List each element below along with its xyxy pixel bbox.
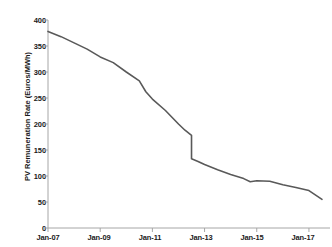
- x-axis-tick-marks: [48, 228, 309, 232]
- pv-remuneration-rate-chart: PV Remuneration Rate (Euros/MWh) 400 350…: [0, 0, 332, 247]
- data-line-pv-remuneration-rate: [48, 31, 322, 199]
- plot-area: [0, 0, 332, 247]
- y-axis-tick-marks: [44, 20, 48, 228]
